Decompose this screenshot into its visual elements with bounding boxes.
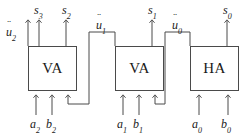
sum-label-s1: s1 (148, 4, 157, 16)
adder-block-va2: VA (28, 46, 77, 91)
adder-block-ha0: HA (190, 46, 239, 91)
input-label-a2: a2 (30, 118, 40, 130)
input-label-b0: b0 (221, 118, 231, 130)
adder-block-ha0-label: HA (203, 60, 226, 77)
sum-label-s3: s3 (34, 4, 43, 16)
input-label-b1: b1 (133, 118, 143, 130)
carry-label-u0: u¨0 (172, 19, 182, 31)
adder-block-va2-label: VA (42, 60, 63, 77)
sum-label-s0: s0 (223, 4, 232, 16)
adder-block-va1: VA (115, 46, 164, 91)
input-label-a0: a0 (192, 118, 202, 130)
carry-label-u2: u¨2 (6, 26, 16, 38)
input-label-b2: b2 (46, 118, 56, 130)
input-label-a1: a1 (117, 118, 127, 130)
carry-label-u1: u¨1 (96, 19, 106, 31)
ripple-carry-adder-diagram: VA VA HA s3 s2 s1 s0 u¨2 u¨1 u¨0 a2 b2 a… (0, 0, 246, 139)
sum-label-s2: s2 (62, 4, 71, 16)
adder-block-va1-label: VA (129, 60, 150, 77)
